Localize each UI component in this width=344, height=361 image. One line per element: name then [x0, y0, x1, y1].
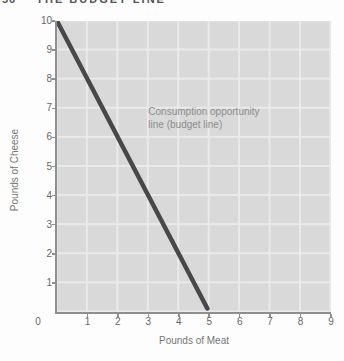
page-number: 56: [2, 0, 16, 5]
x-tick-mark: [300, 314, 302, 317]
x-tick-label: 5: [199, 316, 219, 327]
x-tick-label: 2: [108, 316, 128, 327]
x-tick-mark: [208, 314, 210, 317]
y-tick-label: 4: [24, 190, 52, 201]
y-tick-label: 2: [24, 248, 52, 259]
x-tick-label: 7: [260, 316, 280, 327]
x-tick-mark: [239, 314, 241, 317]
y-tick-label: 3: [24, 219, 52, 230]
budget-line-annotation: Consumption opportunityline (budget line…: [148, 105, 259, 131]
textbook-figure-page: 56 THE BUDGET LINE Pounds of Cheese Cons…: [0, 0, 344, 361]
y-tick-label: 10: [24, 15, 52, 26]
annotation-line: Consumption opportunity: [148, 105, 259, 118]
origin-label: 0: [30, 316, 46, 327]
y-tick-label: 1: [24, 277, 52, 288]
running-head: 56 THE BUDGET LINE: [0, 0, 166, 5]
y-tick-label: 9: [24, 44, 52, 55]
x-tick-label: 6: [230, 316, 250, 327]
plot-area: Consumption opportunityline (budget line…: [55, 21, 331, 314]
y-tick-label: 6: [24, 131, 52, 142]
running-head-title: THE BUDGET LINE: [36, 0, 166, 5]
y-tick-label: 8: [24, 73, 52, 84]
x-tick-label: 3: [138, 316, 158, 327]
y-axis-title: Pounds of Cheese: [9, 129, 20, 211]
budget-line: [57, 21, 331, 312]
x-tick-label: 8: [291, 316, 311, 327]
x-tick-label: 9: [321, 316, 341, 327]
x-tick-label: 1: [77, 316, 97, 327]
annotation-line: line (budget line): [148, 118, 259, 131]
y-tick-label: 7: [24, 102, 52, 113]
x-axis-title: Pounds of Meat: [57, 335, 331, 346]
x-tick-label: 4: [169, 316, 189, 327]
y-tick-label: 5: [24, 161, 52, 172]
x-tick-mark: [330, 314, 332, 317]
x-tick-mark: [269, 314, 271, 317]
x-tick-mark: [117, 314, 119, 317]
x-tick-mark: [178, 314, 180, 317]
x-tick-mark: [148, 314, 150, 317]
x-tick-mark: [87, 314, 89, 317]
